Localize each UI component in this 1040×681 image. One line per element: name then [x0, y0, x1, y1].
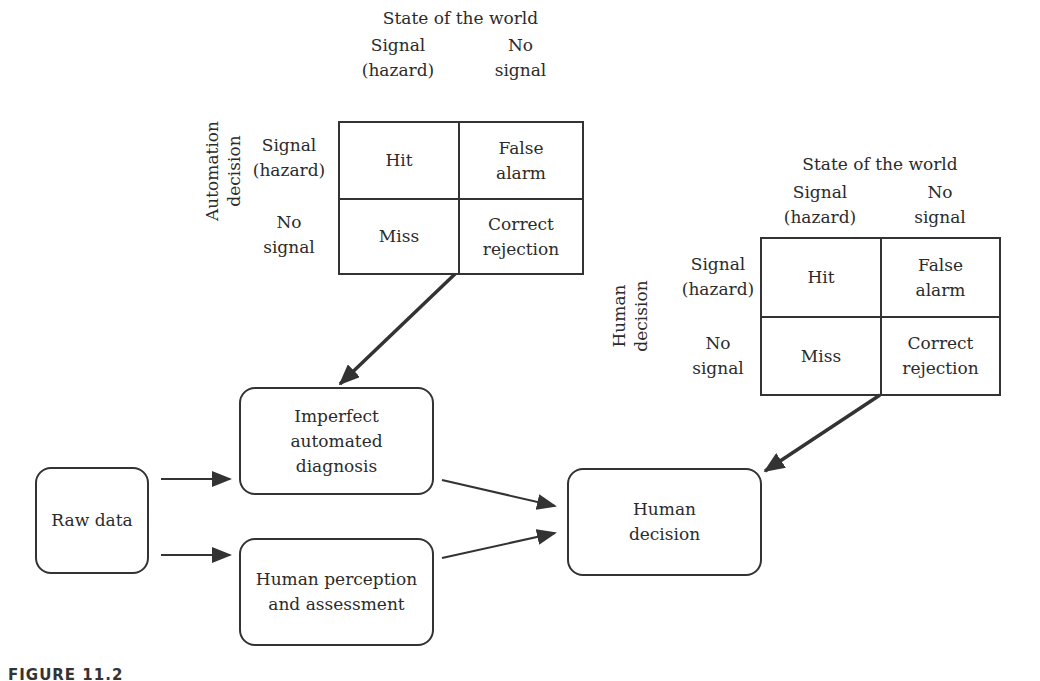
arrow-human-matrix-to-decision	[765, 395, 880, 471]
figure-caption: FIGURE 11.2	[8, 666, 123, 681]
arrow-automation-matrix-to-diagnosis	[340, 274, 455, 384]
arrow-diagnosis-to-decision	[442, 480, 555, 506]
arrow-perception-to-decision	[442, 533, 555, 558]
connector-arrows	[0, 0, 1040, 681]
